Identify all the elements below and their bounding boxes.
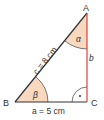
vertex-b-label: B <box>3 98 9 108</box>
side-b-label: b <box>89 53 94 63</box>
side-a-label: a = 5 cm <box>32 106 65 116</box>
angle-beta-label: β <box>32 90 38 100</box>
vertex-a-label: A <box>83 3 89 13</box>
vertex-c-label: C <box>91 98 98 108</box>
triangle-diagram: A B C c = 8 cm a = 5 cm b α β <box>0 0 104 120</box>
side-c-label: c = 8 cm <box>31 45 59 76</box>
right-angle-marker <box>72 87 87 102</box>
